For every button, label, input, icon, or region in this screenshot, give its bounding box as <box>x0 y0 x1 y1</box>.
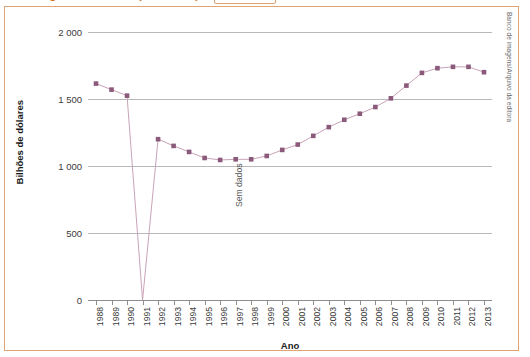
x-tick <box>484 300 485 305</box>
x-tick-label: 2008 <box>405 307 415 326</box>
x-tick <box>112 300 113 305</box>
data-point-marker <box>125 93 130 98</box>
page-title: Mundo: gastos militares (1988-2013) <box>6 0 199 1</box>
data-point-marker <box>218 158 223 163</box>
y-axis-title: Bilhões de dólares <box>14 100 25 184</box>
data-point-marker <box>451 65 456 70</box>
data-point-marker <box>466 65 471 70</box>
x-tick-label: 1993 <box>173 307 183 326</box>
x-tick-label: 2006 <box>374 307 384 326</box>
x-tick-label: 2002 <box>312 307 322 326</box>
x-tick-label: 2010 <box>436 307 446 326</box>
data-point-marker <box>404 83 409 88</box>
data-point-marker <box>358 111 363 116</box>
data-point-marker <box>389 96 394 101</box>
x-tick <box>236 300 237 305</box>
x-tick <box>406 300 407 305</box>
x-tick <box>329 300 330 305</box>
series-line <box>96 67 484 300</box>
x-tick <box>174 300 175 305</box>
x-tick-label: 2012 <box>467 307 477 326</box>
x-tick-label: 2001 <box>297 307 307 326</box>
data-point-marker <box>435 66 440 71</box>
data-point-marker <box>264 154 269 159</box>
data-point-marker <box>156 137 161 142</box>
data-point-marker <box>233 157 238 162</box>
x-tick-label: 2007 <box>390 307 400 326</box>
x-tick <box>251 300 252 305</box>
x-tick-label: 1995 <box>204 307 214 326</box>
data-point-marker <box>327 125 332 130</box>
plot-area: Sem dados <box>88 32 492 300</box>
x-tick-label: 2011 <box>452 307 462 325</box>
x-axis-title: Ano <box>88 340 492 351</box>
x-tick <box>298 300 299 305</box>
data-point-marker <box>94 81 99 86</box>
data-point-marker <box>295 142 300 147</box>
x-tick-label: 2003 <box>328 307 338 326</box>
x-tick <box>375 300 376 305</box>
x-tick <box>143 300 144 305</box>
data-point-marker <box>171 144 176 149</box>
data-point-marker <box>187 150 192 155</box>
x-tick-label: 2005 <box>359 307 369 326</box>
x-tick-label: 1999 <box>266 307 276 326</box>
x-tick-label: 1989 <box>111 307 121 326</box>
x-tick <box>360 300 361 305</box>
series-line-markers <box>88 32 492 300</box>
x-tick <box>391 300 392 305</box>
no-data-annotation: Sem dados <box>234 164 244 207</box>
x-tick-label: 1991 <box>142 307 152 326</box>
data-point-marker <box>342 117 347 122</box>
x-tick-label: 1998 <box>250 307 260 326</box>
x-tick <box>437 300 438 305</box>
x-axis-ticks <box>88 300 492 306</box>
image-credit: Banco de imagens/Arquivo da editora <box>506 12 513 122</box>
x-tick-label: 1996 <box>219 307 229 326</box>
y-tick-label: 0 <box>77 295 82 306</box>
data-point-marker <box>280 148 285 153</box>
x-tick <box>453 300 454 305</box>
data-point-marker <box>373 105 378 110</box>
x-tick <box>313 300 314 305</box>
x-tick <box>282 300 283 305</box>
x-tick-label: 1992 <box>157 307 167 326</box>
x-axis-labels: 1988198919901991199219931994199519961997… <box>88 307 492 339</box>
x-tick <box>468 300 469 305</box>
y-tick-label: 2 000 <box>58 27 82 38</box>
data-point-marker <box>109 87 114 92</box>
data-point-marker <box>311 134 316 139</box>
y-axis-ticks: 05001 0001 5002 000 <box>46 32 82 300</box>
x-tick <box>96 300 97 305</box>
x-tick-label: 1994 <box>188 307 198 326</box>
y-tick-label: 1 000 <box>58 161 82 172</box>
x-tick <box>220 300 221 305</box>
x-tick-label: 1997 <box>235 307 245 326</box>
x-tick <box>267 300 268 305</box>
x-tick-label: 1990 <box>126 307 136 326</box>
x-tick-label: 2000 <box>281 307 291 326</box>
x-tick <box>422 300 423 305</box>
data-point-marker <box>249 157 254 162</box>
data-point-marker <box>202 156 207 161</box>
x-tick <box>127 300 128 305</box>
x-tick <box>344 300 345 305</box>
x-tick-label: 2013 <box>483 307 493 326</box>
x-tick <box>189 300 190 305</box>
data-point-marker <box>420 71 425 76</box>
x-tick <box>158 300 159 305</box>
title-badge <box>214 0 276 4</box>
y-tick-label: 1 500 <box>58 94 82 105</box>
x-tick-label: 2004 <box>343 307 353 326</box>
y-tick-label: 500 <box>66 228 82 239</box>
x-tick <box>205 300 206 305</box>
x-tick-label: 1988 <box>95 307 105 326</box>
x-tick-label: 2009 <box>421 307 431 326</box>
data-point-marker <box>482 70 487 75</box>
